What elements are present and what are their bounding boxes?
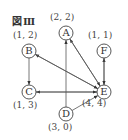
node-label-e: E: [97, 85, 111, 99]
node-coord-f: (1, 1): [88, 30, 112, 40]
node-label-f: F: [97, 44, 111, 58]
node-label-b: B: [22, 44, 36, 58]
edge-b-to-e: [35, 54, 98, 88]
figure-title: 図Ⅲ: [12, 13, 36, 28]
node-label-c: C: [22, 85, 36, 99]
node-label-d: D: [59, 107, 73, 121]
node-coord-b: (1, 2): [13, 30, 37, 40]
node-coord-c: (1, 3): [13, 100, 37, 110]
edge-a-to-e: [70, 39, 100, 86]
node-coord-d: (3, 0): [48, 122, 72, 132]
node-coord-a: (2, 2): [50, 12, 74, 22]
node-coord-e: (4, 4): [82, 98, 106, 108]
node-label-a: A: [59, 26, 73, 40]
